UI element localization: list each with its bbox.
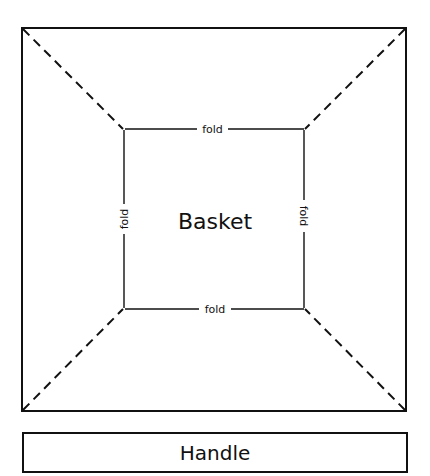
fold-label-right: fold [297,206,310,227]
fold-label-bottom: fold [205,303,226,316]
cut-line-top-right [305,29,405,129]
basket-label: Basket [178,209,253,234]
cut-line-top-left [23,29,123,129]
handle-label: Handle [180,441,251,465]
fold-label-top: fold [202,123,223,136]
cut-line-bottom-right [305,309,405,410]
cut-line-bottom-left [23,309,123,410]
basket-template-diagram: fold fold fold fold Basket Handle [0,0,430,476]
fold-label-left: fold [118,209,131,230]
